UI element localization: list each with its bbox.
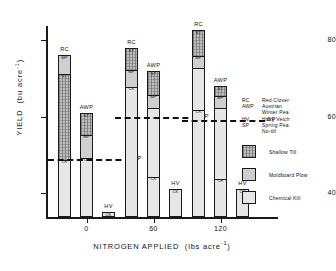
bar-segment-label: ST <box>196 31 202 35</box>
bar-crop-label: AWP <box>141 62 166 68</box>
legend-swatch-shallow-till <box>242 145 256 158</box>
bar-segment-label: ST <box>84 114 90 118</box>
x-axis-line <box>46 217 278 219</box>
bar-segment-st: ST <box>81 114 92 135</box>
bar-segment-ck: CK <box>215 179 226 217</box>
segment-divider <box>215 179 226 180</box>
bar-segment-label: CK <box>172 190 178 194</box>
bar-segment-label: ST <box>129 49 135 53</box>
legend-swatch-row: Moldboard Plow <box>242 168 336 181</box>
segment-divider <box>126 70 137 71</box>
bar: CK <box>169 189 182 217</box>
bar-crop-label: AWP <box>74 104 99 110</box>
segment-divider <box>215 108 226 109</box>
segment-divider <box>215 96 226 97</box>
bar: CK <box>102 212 115 217</box>
segment-divider <box>126 87 137 88</box>
bar: STMPCK <box>214 86 227 217</box>
bar-segment-ck: CK <box>126 87 137 217</box>
y-axis-title: YIELD (bu acre-1) <box>14 42 25 152</box>
legend-swatch-label: Moldboard Plow <box>269 172 308 178</box>
legend-swatch-row: Shallow Till <box>242 145 336 158</box>
bar-segment-st: ST <box>193 31 204 56</box>
legend-swatch-row: Chemical Kill <box>242 191 336 204</box>
bar-crop-label: RC <box>119 39 144 45</box>
legend-swatch-moldboard-plow <box>242 168 256 181</box>
bar-segment-label: ST <box>151 72 157 76</box>
legend-crop-codes: RCRed CloverAWPAustrianWinter PeaHVHairy… <box>242 97 336 134</box>
segment-divider <box>148 177 159 178</box>
x-tick-label: 120 <box>201 225 241 232</box>
legend-swatch-label: Shallow Till <box>269 149 296 155</box>
bar-segment-st: ST <box>126 49 137 70</box>
segment-divider <box>59 74 70 75</box>
x-tick <box>87 219 88 223</box>
segment-divider <box>193 110 204 111</box>
bar-segment-ck: CK <box>148 177 159 217</box>
y-tick-label: 80 <box>314 36 336 43</box>
bar: STMPCK <box>192 30 205 217</box>
bar-segment-mp: MP <box>81 135 92 158</box>
legend-swatch-label: Chemical Kill <box>269 195 301 201</box>
sp-reference-line <box>48 159 131 161</box>
segment-divider <box>193 68 204 69</box>
x-tick <box>154 219 155 223</box>
x-axis-title: NITROGEN APPLIED (lbs acre-1) <box>46 240 278 251</box>
bar-segment-mp: MP <box>193 56 204 67</box>
legend-code-name: No-till <box>262 128 336 134</box>
bar-segment-ck: CK <box>59 160 70 217</box>
segment-divider <box>81 135 92 136</box>
bar: STMPCK <box>147 71 160 217</box>
bar: STMPCK <box>125 48 138 217</box>
bar-segment-ck: CK <box>193 110 204 217</box>
legend-code-row: No-till <box>242 128 336 134</box>
bar-segment-st: ST <box>59 74 70 160</box>
x-tick-label: 60 <box>134 225 174 232</box>
legend-tillage-swatches: Shallow TillMoldboard PlowChemical Kill <box>242 145 336 204</box>
bar: STMPCK <box>80 113 93 217</box>
bar-segment-mp: MP <box>215 96 226 107</box>
bar-crop-label: HV <box>96 203 121 209</box>
y-tick <box>41 117 46 118</box>
bar-segment-mp: MP <box>59 56 70 73</box>
segment-divider <box>148 108 159 109</box>
bar-crop-label: RC <box>52 46 77 52</box>
segment-divider <box>193 56 204 57</box>
bar-segment-label: CK <box>105 213 111 217</box>
legend-swatch-chemical-kill <box>242 191 256 204</box>
bar-crop-label: AWP <box>208 77 233 83</box>
x-tick <box>221 219 222 223</box>
y-axis-line <box>46 26 48 218</box>
chart-legend: RCRed CloverAWPAustrianWinter PeaHVHairy… <box>242 97 336 214</box>
sp-reference-line <box>115 117 198 119</box>
bar-crop-label: HV <box>163 180 188 186</box>
bar-segment-ck: CK <box>170 190 181 217</box>
y-tick <box>41 40 46 41</box>
bar-segment-mp: MP <box>148 95 159 108</box>
bar-segment-mp: MP <box>126 70 137 87</box>
bar-segment-ck: CK <box>81 158 92 217</box>
legend-code <box>242 128 262 134</box>
bar-crop-label: RC <box>186 21 211 27</box>
bar-segment-label: ST <box>218 87 224 91</box>
yield-vs-nitrogen-chart: YIELD (bu acre-1) NITROGEN APPLIED (lbs … <box>0 0 336 271</box>
y-tick <box>41 193 46 194</box>
segment-divider <box>148 95 159 96</box>
bar-segment-st: ST <box>148 72 159 95</box>
x-tick-label: 0 <box>67 225 107 232</box>
bar: STMPCK <box>58 55 71 217</box>
bar-segment-ck: CK <box>103 213 114 217</box>
bar-segment-label: MP <box>61 56 68 60</box>
